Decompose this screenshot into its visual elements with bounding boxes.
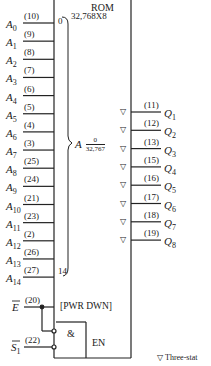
address-pin-number: (4) — [24, 121, 35, 130]
three-state-icon: ▽ — [120, 108, 126, 116]
address-pin-number: (7) — [24, 66, 35, 75]
address-input-label: A10 — [6, 201, 21, 215]
and-gate-label: & — [67, 329, 75, 339]
address-pin-number: (2) — [24, 230, 35, 239]
address-input-label: A5 — [6, 110, 17, 124]
output-label: Q6 — [164, 200, 176, 214]
three-state-icon: ▽ — [120, 236, 126, 244]
address-input-label: A13 — [6, 255, 21, 269]
output-pin-number: (17) — [144, 193, 159, 202]
output-pin-number: (13) — [144, 138, 159, 147]
output-pin-number: (18) — [144, 211, 159, 220]
address-input-label: A4 — [6, 92, 17, 106]
inversion-bubble-s1 — [52, 345, 56, 349]
address-pin-number: (3) — [24, 139, 35, 148]
select-input-label: S1 — [11, 342, 21, 356]
output-label: Q2 — [164, 126, 176, 140]
output-label: Q4 — [164, 163, 176, 177]
enable-block-label: EN — [92, 338, 105, 348]
output-pin-number: (19) — [144, 229, 159, 238]
enable-pin: (20) — [25, 296, 40, 305]
three-state-icon: ▽ — [120, 200, 126, 208]
address-pin-number: (9) — [24, 30, 35, 39]
address-input-label: A8 — [6, 164, 17, 178]
address-pin-number: (26) — [24, 248, 39, 257]
output-pin-number: (12) — [144, 119, 159, 128]
address-pin-number: (5) — [24, 103, 35, 112]
address-input-label: A3 — [6, 73, 17, 87]
address-pin-number: (10) — [24, 12, 39, 21]
output-label: Q7 — [164, 218, 176, 232]
address-pin-number: (24) — [24, 175, 39, 184]
address-input-label: A1 — [6, 37, 17, 51]
address-pin-number: (27) — [24, 266, 39, 275]
address-brace — [62, 17, 72, 276]
output-label: Q1 — [164, 108, 176, 122]
power-down-label: [PWR DWN] — [60, 302, 112, 312]
address-input-label: A9 — [6, 182, 17, 196]
enable-input-label: E — [12, 302, 19, 313]
address-pin-number: (21) — [24, 194, 39, 203]
three-state-icon: ▽ — [120, 181, 126, 189]
address-pin-number: (6) — [24, 85, 35, 94]
rom-logic-diagram: ROM 32,768X8 0 14 A 0 32,767 A0(10)A1(9)… — [0, 0, 211, 366]
bus-start-label: 0 — [58, 17, 63, 26]
three-state-icon: ▽ — [120, 145, 126, 153]
address-range-label: A 0 32,767 — [75, 135, 105, 153]
address-lines — [23, 23, 54, 277]
three-state-icon: ▽ — [120, 163, 126, 171]
three-state-icon: ▽ — [157, 353, 163, 362]
address-pin-number: (23) — [24, 212, 39, 221]
output-label: Q5 — [164, 181, 176, 195]
address-input-label: A11 — [6, 219, 20, 233]
output-pin-number: (11) — [144, 101, 159, 110]
three-state-icon: ▽ — [120, 218, 126, 226]
address-input-label: A0 — [6, 19, 17, 33]
address-input-label: A2 — [6, 55, 17, 69]
address-input-label: A7 — [6, 146, 17, 160]
address-input-label: A6 — [6, 128, 17, 142]
output-pin-number: (16) — [144, 174, 159, 183]
three-state-legend: ▽ Three-stat — [157, 354, 197, 362]
output-label: Q8 — [164, 236, 176, 250]
inversion-bubble-e — [52, 329, 56, 333]
three-state-icon: ▽ — [120, 126, 126, 134]
output-pin-number: (15) — [144, 156, 159, 165]
address-pin-number: (8) — [24, 48, 35, 57]
rom-size: 32,768X8 — [71, 12, 107, 21]
bus-end-label: 14 — [58, 267, 67, 276]
output-label: Q3 — [164, 145, 176, 159]
address-pin-number: (25) — [24, 157, 39, 166]
address-input-label: A14 — [6, 273, 21, 287]
address-input-label: A12 — [6, 237, 21, 251]
select-pin: (22) — [25, 336, 40, 345]
